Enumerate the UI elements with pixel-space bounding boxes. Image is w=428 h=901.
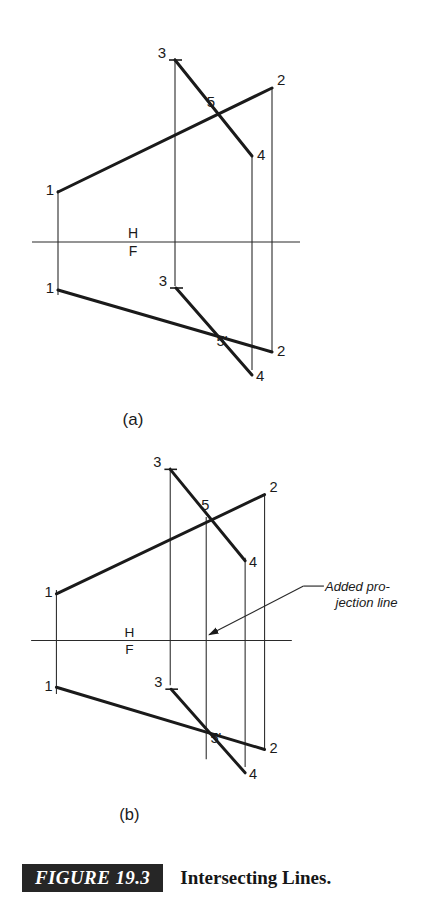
label-f-plane: F bbox=[129, 243, 138, 259]
label-h-plane: H bbox=[128, 225, 138, 241]
line-3-4-front-view bbox=[171, 689, 245, 773]
line-1-2-front-view bbox=[56, 687, 264, 749]
label-point-2-front: 2 bbox=[277, 342, 285, 359]
line-1-2-front-view bbox=[58, 290, 272, 352]
figure-caption-bar: FIGURE 19.3 Intersecting Lines. bbox=[0, 855, 428, 901]
label-point-2-top: 2 bbox=[269, 479, 277, 495]
label-f-plane: F bbox=[125, 642, 133, 657]
figure-number-badge: FIGURE 19.3 bbox=[22, 864, 163, 893]
label-point-5-prime-front: 5' bbox=[210, 730, 221, 746]
sublabel-b: (b) bbox=[119, 806, 139, 825]
label-point-4-top: 4 bbox=[257, 146, 265, 163]
label-point-1-front: 1 bbox=[45, 678, 53, 694]
label-point-4-top: 4 bbox=[249, 554, 257, 570]
label-point-2-front: 2 bbox=[269, 740, 277, 756]
annotation-line-1: Added pro- bbox=[324, 579, 391, 594]
line-3-4-front-view bbox=[176, 288, 252, 375]
label-point-2-top: 2 bbox=[277, 71, 285, 88]
label-point-1-top: 1 bbox=[46, 181, 54, 198]
panel-b-drawing: Added pro- jection line 1 2 3 4 5 1 2 3 … bbox=[0, 440, 428, 880]
figure-19-3: 1 2 3 4 5 1 2 3 4 5' H F (a) bbox=[0, 0, 428, 901]
label-point-5-prime-front: 5' bbox=[216, 332, 227, 349]
annotation-leader-line bbox=[209, 586, 303, 635]
label-point-3-top: 3 bbox=[153, 454, 161, 470]
label-point-3-top: 3 bbox=[158, 44, 166, 61]
label-point-3-front: 3 bbox=[159, 272, 167, 289]
label-point-4-front: 4 bbox=[256, 367, 264, 384]
sublabel-a: (a) bbox=[123, 410, 144, 429]
figure-caption-text: Intersecting Lines. bbox=[180, 867, 331, 889]
label-point-5-top: 5 bbox=[207, 93, 215, 110]
label-point-1-front: 1 bbox=[46, 279, 54, 296]
label-h-plane: H bbox=[124, 625, 134, 640]
panel-a-drawing: 1 2 3 4 5 1 2 3 4 5' H F (a) bbox=[0, 0, 428, 440]
diagram-panel-a: 1 2 3 4 5 1 2 3 4 5' H F (a) bbox=[0, 0, 428, 440]
annotation-line-2: jection line bbox=[334, 595, 398, 610]
label-point-4-front: 4 bbox=[249, 766, 257, 782]
line-3-4-top-view bbox=[170, 469, 245, 560]
label-point-5-top: 5 bbox=[201, 497, 209, 513]
label-point-3-front: 3 bbox=[154, 674, 162, 690]
diagram-panel-b: Added pro- jection line 1 2 3 4 5 1 2 3 … bbox=[0, 440, 428, 880]
label-point-1-top: 1 bbox=[45, 584, 53, 600]
